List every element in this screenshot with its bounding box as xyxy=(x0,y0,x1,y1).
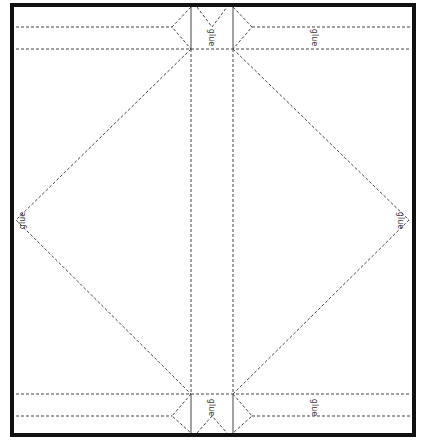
glue-label-top-right: glue xyxy=(310,29,319,46)
left-diamond-flap xyxy=(16,49,191,394)
bottom-left-tab xyxy=(172,394,191,433)
glue-label-top-center: glue xyxy=(207,29,216,46)
right-diamond-flap xyxy=(233,49,409,394)
top-left-tab xyxy=(172,7,191,49)
top-right-tab xyxy=(233,7,252,49)
bottom-center-notch xyxy=(197,416,227,433)
outer-border xyxy=(12,5,414,435)
glue-label-bottom-right: glue xyxy=(310,399,319,416)
template-drawing xyxy=(0,0,422,440)
glue-label-right-apex: glue xyxy=(396,212,405,229)
template-sheet: glue glue glue glue glue glue xyxy=(0,0,422,440)
top-center-notch xyxy=(197,7,227,27)
glue-label-left-apex: glue xyxy=(18,212,27,229)
glue-label-bottom-center: glue xyxy=(207,399,216,416)
bottom-right-tab xyxy=(233,394,252,433)
